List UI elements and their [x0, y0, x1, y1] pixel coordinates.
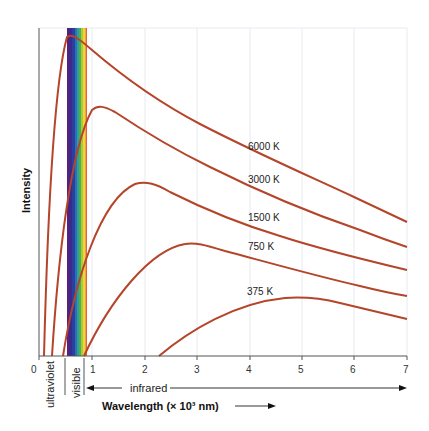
blackbody-chart: 0 1 2 3 4 5 6 7 ultraviolet visible infr… — [0, 0, 429, 431]
y-axis-title: Intensity — [20, 167, 32, 213]
x-axis-title-arrow — [235, 403, 276, 409]
label-3000k: 3000 K — [248, 174, 280, 185]
curve-1500k — [63, 183, 407, 356]
curve-6000k — [44, 36, 407, 356]
label-750k: 750 K — [248, 241, 274, 252]
svg-text:1: 1 — [90, 364, 96, 375]
curve-375k — [159, 298, 407, 356]
label-6000k: 6000 K — [248, 141, 280, 152]
x-axis-title: Wavelength (× 10³ nm) — [102, 400, 219, 412]
infrared-label: infrared — [130, 382, 167, 394]
svg-text:0: 0 — [31, 364, 37, 375]
curve-750k — [84, 243, 407, 356]
label-1500k: 1500 K — [248, 212, 280, 223]
svg-text:5: 5 — [298, 364, 304, 375]
svg-text:7: 7 — [403, 364, 409, 375]
svg-text:3: 3 — [194, 364, 200, 375]
svg-text:6: 6 — [350, 364, 356, 375]
x-tick-labels: 0 1 2 3 4 5 6 7 — [31, 364, 409, 375]
ultraviolet-label: ultraviolet — [44, 361, 56, 408]
curves — [44, 36, 407, 356]
axes — [39, 28, 407, 395]
svg-text:2: 2 — [142, 364, 148, 375]
infrared-arrow: infrared — [86, 382, 407, 394]
visible-label: visible — [70, 367, 82, 398]
svg-text:4: 4 — [246, 364, 252, 375]
label-375k: 375 K — [247, 286, 273, 297]
